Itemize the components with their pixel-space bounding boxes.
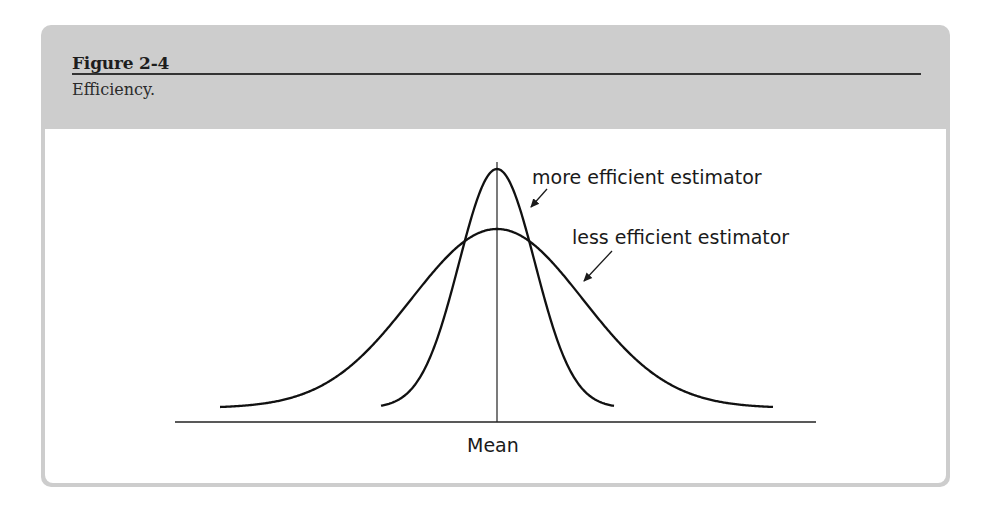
arrow-more-icon bbox=[531, 189, 547, 207]
arrow-less-icon bbox=[584, 251, 612, 281]
label-less-efficient: less efficient estimator bbox=[572, 226, 789, 248]
efficiency-chart: more efficient estimator less efficient … bbox=[0, 0, 1001, 516]
label-more-efficient: more efficient estimator bbox=[532, 166, 762, 188]
label-mean: Mean bbox=[467, 434, 519, 456]
